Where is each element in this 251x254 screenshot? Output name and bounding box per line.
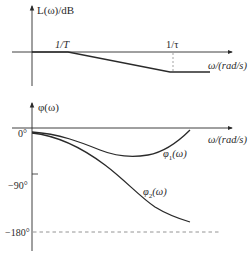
phi1-label-tail: (ω) (172, 148, 187, 160)
phi2-label: φ2(ω) (143, 186, 167, 200)
phi1-label: φ1(ω) (163, 148, 187, 162)
phi2-label-tail: (ω) (152, 186, 167, 198)
tick-minus180-label: −180° (5, 227, 30, 238)
bode-diagram: L(ω)/dB ω/(rad/s) 1/T 1/τ φ(ω) ω/(rad/s)… (0, 0, 251, 254)
phase-y-label: φ(ω) (38, 101, 59, 114)
phase-plot: φ(ω) ω/(rad/s) 0° −90° −180° φ1(ω) φ2(ω) (5, 101, 247, 251)
tick-minus90-label: −90° (8, 180, 28, 191)
magnitude-y-label: L(ω)/dB (37, 4, 74, 17)
magnitude-plot: L(ω)/dB ω/(rad/s) 1/T 1/τ (12, 4, 247, 86)
phase-x-label: ω/(rad/s) (208, 134, 247, 146)
magnitude-x-label: ω/(rad/s) (208, 60, 247, 72)
phi2-curve (32, 133, 190, 222)
tick-0-label: 0° (18, 128, 27, 139)
breakpoint-1-label: 1/T (55, 39, 70, 50)
breakpoint-2-label: 1/τ (166, 39, 178, 50)
magnitude-asymptote (32, 52, 210, 72)
